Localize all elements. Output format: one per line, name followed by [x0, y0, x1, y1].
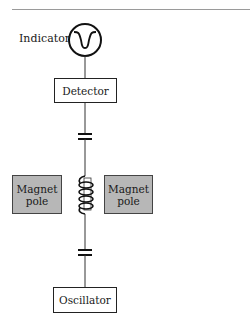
lower-capacitor-icon [78, 250, 92, 255]
magnet-right-line1: Magnet [108, 183, 149, 195]
detector-label: Detector [62, 85, 109, 97]
coil-icon [79, 176, 93, 214]
magnet-right-line2: pole [108, 195, 149, 207]
indicator-label: Indicator [19, 32, 70, 45]
upper-capacitor-icon [78, 134, 92, 139]
oscillator-label: Oscillator [59, 294, 111, 306]
indicator-dial-icon [69, 24, 101, 56]
detector-box: Detector [54, 78, 117, 103]
circuit-wiring [0, 0, 250, 325]
magnet-left-line2: pole [17, 195, 58, 207]
magnet-pole-left: Magnet pole [12, 175, 62, 214]
magnet-left-line1: Magnet [17, 183, 58, 195]
magnet-pole-right: Magnet pole [104, 175, 153, 214]
oscillator-box: Oscillator [53, 287, 117, 313]
